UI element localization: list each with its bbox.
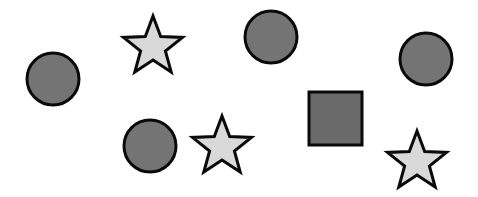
star-3-shape [388,131,447,187]
star-2-shape [193,116,252,172]
shapes-canvas [0,0,478,197]
circle-2-shape [245,11,297,63]
circle-1-shape [27,53,79,105]
square-1-shape [309,92,362,145]
circle-4-shape [124,120,176,172]
star-1-shape [124,16,183,72]
circle-3-shape [400,33,452,85]
